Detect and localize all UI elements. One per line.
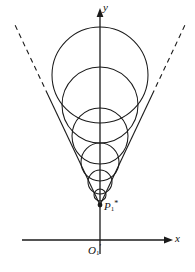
apex-point-marker (98, 203, 103, 208)
x-axis-label: x (175, 233, 180, 244)
origin-label-base: O (88, 244, 96, 256)
figure-container: y x O1′ P1* (0, 0, 195, 272)
apex-label-base: P (104, 200, 111, 212)
apex-point-label: P1* (104, 200, 118, 213)
arrow-right-icon (164, 237, 173, 244)
origin-label: O1′ (88, 244, 101, 257)
apex-label-superscript: * (114, 199, 118, 208)
y-axis-label: y (103, 2, 108, 13)
figure-canvas (0, 0, 195, 272)
left-tangent-line-dashed (15, 25, 48, 95)
right-tangent-line-solid (100, 95, 152, 205)
right-tangent-line-dashed (152, 25, 185, 95)
origin-label-prime: ′ (99, 243, 101, 252)
axes-group (22, 8, 173, 254)
left-tangent-line-solid (48, 95, 100, 205)
